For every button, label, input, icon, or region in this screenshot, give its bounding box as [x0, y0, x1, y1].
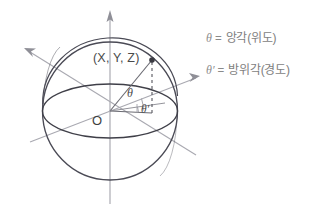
point-coordinate-label: (X, Y, Z) [93, 51, 140, 65]
legend-equals-azimuth: = [218, 64, 225, 76]
y-axis-line [30, 78, 196, 142]
origin-label: O [92, 113, 102, 128]
axes-group [24, 10, 200, 204]
legend: θ = 앙각(위도) θ′ = 방위각(경도) [206, 28, 322, 92]
legend-theta-symbol: θ [206, 31, 212, 46]
legend-row-azimuth: θ′ = 방위각(경도) [206, 60, 322, 78]
point-marker [149, 57, 155, 63]
theta-angle-label: θ [127, 86, 133, 101]
legend-equals-elevation: = [215, 32, 222, 44]
diagram-root: (X, Y, Z) O θ θ′ θ = 앙각(위도) θ′ = 방위각(경도) [0, 0, 322, 215]
theta-prime-arc [138, 107, 139, 112]
legend-row-elevation: θ = 앙각(위도) [206, 28, 322, 46]
legend-theta-prime-symbol: θ′ [206, 63, 215, 78]
y-axis-arrow-icon [189, 73, 200, 82]
legend-elevation-text: 앙각(위도) [226, 28, 277, 45]
x-axis-arrow-icon [24, 48, 36, 57]
legend-azimuth-text: 방위각(경도) [228, 60, 290, 77]
theta-prime-angle-label: θ′ [141, 103, 149, 115]
